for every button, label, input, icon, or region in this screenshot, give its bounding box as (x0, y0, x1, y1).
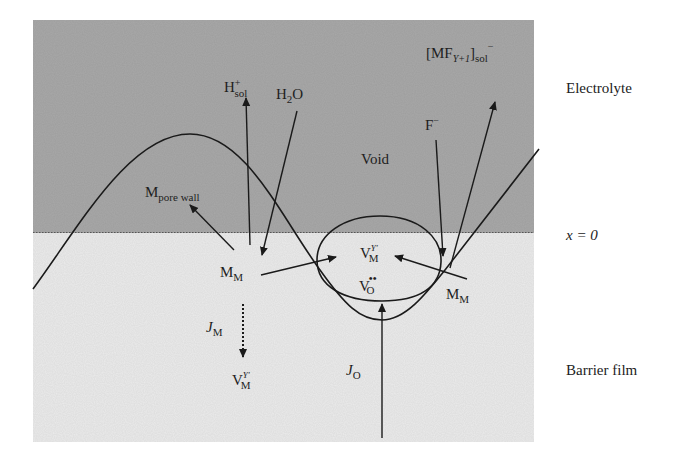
barrier-film-label: Barrier film (566, 362, 637, 379)
v-m-void-label: VY′M (360, 243, 379, 264)
interface-label: x = 0 (566, 227, 598, 244)
void-label: Void (361, 151, 390, 167)
pore-formation-diagram: Void H+sol H2O [MFY+1]sol− F− Mpore wall… (0, 0, 688, 450)
v-m-film-label: VY′M (232, 370, 251, 391)
electrolyte-label: Electrolyte (566, 80, 632, 97)
